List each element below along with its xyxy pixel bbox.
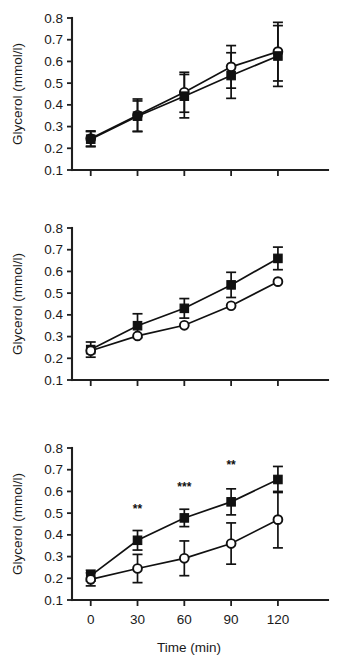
marker-open-circle: [274, 515, 283, 524]
marker-open-circle: [274, 277, 283, 286]
marker-filled-square: [180, 304, 188, 312]
x-tick-label: 60: [177, 612, 192, 627]
y-tick-label: 0.8: [44, 441, 63, 456]
plot-area-panel-a: 0.10.20.30.40.50.60.70.8Glycerol (mmol/l…: [0, 0, 339, 205]
marker-filled-square: [227, 498, 235, 506]
marker-open-circle: [227, 539, 236, 548]
y-tick-label: 0.7: [44, 242, 63, 257]
significance-marker: ***: [177, 480, 191, 494]
y-tick-label: 0.7: [44, 462, 63, 477]
plot-area-panel-b: 0.10.20.30.40.50.60.70.8Glycerol (mmol/l…: [0, 210, 339, 415]
chart-panel-b: 0.10.20.30.40.50.60.70.8Glycerol (mmol/l…: [0, 210, 339, 415]
y-tick-label: 0.4: [44, 307, 63, 322]
marker-open-circle: [86, 346, 95, 355]
y-tick-label: 0.7: [44, 32, 63, 47]
y-tick-label: 0.8: [44, 221, 63, 236]
marker-filled-square: [133, 112, 141, 120]
y-axis-title: Glycerol (mmol/l): [10, 253, 25, 355]
x-tick-label: 0: [87, 612, 95, 627]
y-tick-label: 0.5: [44, 506, 63, 521]
marker-open-circle: [227, 62, 236, 71]
marker-filled-square: [133, 536, 141, 544]
chart-panel-a: 0.10.20.30.40.50.60.70.8Glycerol (mmol/l…: [0, 0, 339, 205]
marker-filled-square: [180, 92, 188, 100]
marker-open-circle: [133, 564, 142, 573]
y-tick-label: 0.6: [44, 54, 63, 69]
marker-open-circle: [227, 301, 236, 310]
error-bars-open-circle-series: [86, 491, 283, 585]
x-tick-label: 120: [267, 612, 290, 627]
y-tick-label: 0.3: [44, 119, 63, 134]
y-tick-label: 0.5: [44, 76, 63, 91]
markers-filled-square-series: [87, 254, 283, 354]
x-tick-label: 30: [130, 612, 145, 627]
y-axis-title: Glycerol (mmol/l): [10, 43, 25, 145]
marker-filled-square: [133, 322, 141, 330]
marker-open-circle: [86, 575, 95, 584]
y-tick-label: 0.6: [44, 484, 63, 499]
y-tick-label: 0.5: [44, 286, 63, 301]
markers-filled-square-series: [87, 52, 283, 144]
x-axis-title: Time (min): [157, 640, 221, 655]
y-tick-label: 0.4: [44, 527, 63, 542]
marker-filled-square: [274, 52, 282, 60]
y-tick-label: 0.2: [44, 141, 63, 156]
y-axis-title: Glycerol (mmol/l): [10, 473, 25, 575]
y-tick-label: 0.3: [44, 329, 63, 344]
figure-glycerol-timecourse: 0.10.20.30.40.50.60.70.8Glycerol (mmol/l…: [0, 0, 339, 666]
error-bars-filled-square-series: [86, 247, 283, 357]
y-tick-label: 0.6: [44, 264, 63, 279]
y-tick-label: 0.2: [44, 351, 63, 366]
marker-filled-square: [274, 254, 282, 262]
y-tick-label: 0.8: [44, 11, 63, 26]
chart-panel-c: 0.10.20.30.40.50.60.70.80306090120Glycer…: [0, 420, 339, 666]
y-tick-label: 0.1: [44, 593, 63, 608]
marker-open-circle: [133, 332, 142, 341]
marker-open-circle: [180, 321, 189, 330]
y-tick-label: 0.3: [44, 549, 63, 564]
y-tick-label: 0.4: [44, 97, 63, 112]
y-tick-label: 0.1: [44, 163, 63, 178]
marker-filled-square: [180, 514, 188, 522]
marker-filled-square: [227, 71, 235, 79]
marker-open-circle: [180, 554, 189, 563]
y-tick-label: 0.1: [44, 373, 63, 388]
error-bars-filled-square-series: [86, 26, 283, 147]
plot-area-panel-c: 0.10.20.30.40.50.60.70.80306090120Glycer…: [0, 420, 339, 666]
significance-marker: **: [133, 502, 143, 516]
marker-filled-square: [227, 281, 235, 289]
marker-filled-square: [87, 135, 95, 143]
y-tick-label: 0.2: [44, 571, 63, 586]
significance-marker: **: [226, 458, 236, 472]
x-tick-label: 90: [224, 612, 239, 627]
marker-filled-square: [274, 475, 282, 483]
